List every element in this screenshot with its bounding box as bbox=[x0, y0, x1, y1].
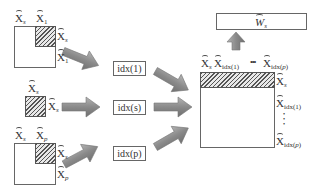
matrix-p-row-label-xp: Xp bbox=[57, 169, 68, 182]
matrix-p-col-label-xs: Xs bbox=[15, 130, 26, 143]
index-box-p: idx(p) bbox=[113, 146, 146, 161]
arrow-icon-idx1-to-output bbox=[150, 62, 193, 98]
arrow-icon-inputs-to-idxs bbox=[62, 97, 100, 117]
arrow-icon-idxp-to-output bbox=[150, 119, 193, 155]
arrow-icon-output-to-w bbox=[227, 32, 245, 50]
output-matrix-hatched-band bbox=[200, 72, 275, 88]
matrix-p-col-label-xp: Xp bbox=[36, 130, 47, 143]
output-row-label-xidx1: Xidx(1) bbox=[276, 98, 301, 111]
result-label-ws: Ws bbox=[255, 17, 267, 30]
matrix-s-col-label-xs: Xs bbox=[28, 83, 39, 96]
matrix-1-row-label-x1: X1 bbox=[57, 52, 68, 65]
index-box-1: idx(1) bbox=[113, 61, 146, 76]
matrix-1-hatched-block bbox=[35, 26, 56, 47]
output-row-label-xs: Xs bbox=[276, 76, 287, 89]
matrix-s-row-label-xs: Xs bbox=[48, 101, 59, 114]
output-col-label-xidx1: XX_idx(1)idx(1) bbox=[214, 58, 239, 71]
index-box-s: idx(s) bbox=[113, 100, 146, 115]
output-row-label-xidxp: Xidx(p) bbox=[276, 136, 301, 149]
matrix-p-row-label-xs: Xs bbox=[57, 148, 68, 161]
matrix-s-hatched-block bbox=[25, 96, 46, 117]
arrow-icon-idxs-to-output bbox=[154, 97, 192, 117]
matrix-1-col-label-xs: Xs bbox=[15, 13, 26, 26]
matrix-1-row-label-xs: Xs bbox=[57, 31, 68, 44]
output-col-label-xs: Xs bbox=[201, 58, 212, 71]
output-col-label-xidxp: Xidx(p) bbox=[263, 58, 288, 71]
output-col-ellipsis: ••• bbox=[250, 59, 255, 67]
output-row-vertical-ellipsis: • • • bbox=[283, 112, 285, 127]
result-box-ws: Ws bbox=[216, 13, 307, 30]
matrix-1-col-label-x1: X1 bbox=[36, 13, 47, 26]
matrix-p-hatched-block bbox=[35, 143, 56, 164]
